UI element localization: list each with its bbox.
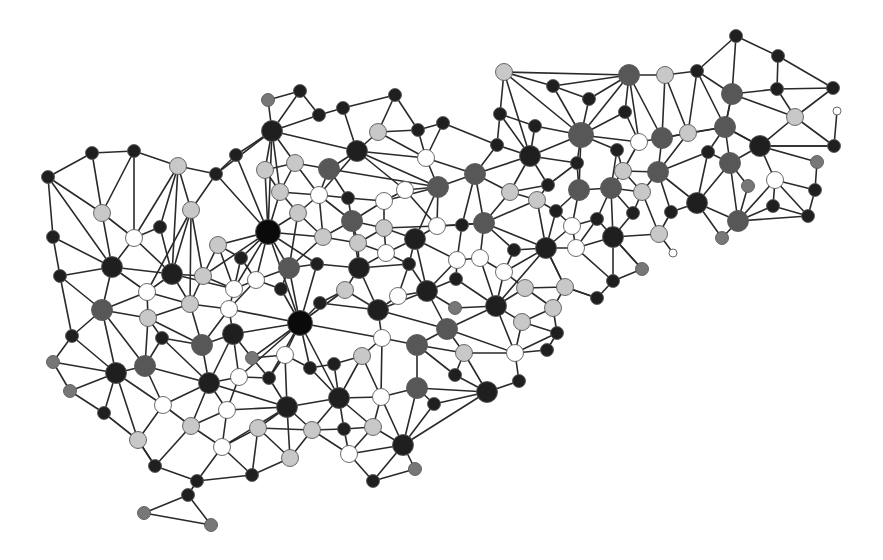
graph-node-white — [155, 397, 172, 414]
graph-edge — [48, 177, 53, 237]
graph-node-black — [256, 220, 281, 245]
graph-node-white — [376, 193, 393, 210]
graph-node-dark — [156, 332, 169, 345]
graph-node-white — [833, 107, 841, 115]
graph-node-dark — [199, 373, 220, 394]
graph-node-dark — [54, 270, 67, 283]
graph-node-dark — [607, 275, 620, 288]
graph-node-dark — [627, 207, 640, 220]
graph-node-dark — [98, 407, 111, 420]
graph-node-dark — [417, 281, 438, 302]
graph-node-gray — [47, 356, 60, 369]
graph-node-dark — [494, 108, 507, 121]
graph-node-dark — [277, 397, 298, 418]
graph-node-gray — [205, 519, 218, 532]
graph-edge — [736, 36, 778, 56]
graph-node-dark — [542, 179, 555, 192]
graph-node-dark — [47, 231, 60, 244]
graph-node-dark — [367, 475, 380, 488]
graph-node-light — [182, 296, 199, 313]
graph-node-dark — [828, 140, 841, 153]
graph-node-dark — [128, 145, 141, 158]
graph-node-white — [429, 218, 446, 235]
graph-node-white — [669, 249, 677, 257]
graph-edge — [777, 88, 833, 89]
graph-node-white — [568, 240, 585, 257]
graph-edge — [504, 72, 581, 135]
graph-node-dark — [547, 80, 560, 93]
graph-node-light — [456, 345, 473, 362]
graph-edge — [343, 95, 395, 108]
graph-node-dark — [809, 184, 822, 197]
graph-node-gray — [636, 263, 649, 276]
graph-node-dark — [827, 82, 840, 95]
graph-node-dark — [591, 213, 604, 226]
graph-node-dark — [262, 121, 283, 142]
graph-node-mid — [342, 211, 363, 232]
graph-node-white — [248, 272, 265, 289]
graph-node-white — [341, 446, 358, 463]
graph-node-light — [140, 310, 157, 327]
graph-node-white — [767, 172, 784, 189]
graph-node-dark — [349, 258, 370, 279]
graph-edge — [697, 36, 736, 71]
graph-node-dark — [154, 221, 167, 234]
graph-node-mid — [428, 177, 449, 198]
graph-node-white — [277, 347, 294, 364]
graph-node-dark — [767, 200, 780, 213]
graph-node-light — [94, 205, 111, 222]
graph-node-white — [226, 281, 243, 298]
graph-edge — [102, 151, 134, 213]
graph-edge — [144, 513, 211, 525]
graph-node-mid — [652, 128, 673, 149]
graph-node-dark — [182, 489, 195, 502]
graph-node-dark — [529, 120, 542, 133]
graph-node-light — [315, 229, 332, 246]
graph-node-light — [502, 184, 519, 201]
graph-node-dark — [328, 358, 341, 371]
graph-node-mid — [569, 123, 594, 148]
graph-node-light — [545, 300, 562, 317]
graph-node-dark — [687, 193, 708, 214]
graph-node-light — [304, 422, 321, 439]
graph-node-dark — [403, 258, 416, 271]
graph-node-dark — [149, 460, 162, 473]
graph-node-white — [390, 288, 407, 305]
graph-node-mid — [474, 213, 495, 234]
graph-node-dark — [393, 435, 414, 456]
graph-node-dark — [508, 244, 521, 257]
graph-node-dark — [223, 324, 244, 345]
graph-node-black — [288, 311, 313, 336]
graph-node-dark — [314, 297, 327, 310]
graph-node-light — [514, 314, 531, 331]
graph-node-white — [397, 182, 414, 199]
graph-node-dark — [428, 398, 441, 411]
graph-node-dark — [294, 85, 307, 98]
graph-edge — [443, 123, 497, 145]
graph-node-dark — [311, 258, 324, 271]
graph-node-white — [221, 301, 238, 318]
graph-node-dark — [235, 252, 248, 265]
graph-node-dark — [412, 124, 425, 137]
graph-node-gray — [742, 180, 755, 193]
graph-node-dark — [619, 106, 632, 119]
graph-node-light — [282, 450, 299, 467]
graph-node-dark — [541, 344, 554, 357]
graph-node-dark — [772, 50, 785, 63]
graph-node-dark — [450, 273, 463, 286]
graph-node-white — [373, 389, 390, 406]
graph-node-dark — [162, 264, 183, 285]
graph-node-light — [210, 237, 227, 254]
graph-node-dark — [210, 168, 223, 181]
graph-node-mid — [407, 335, 428, 356]
graph-node-dark — [750, 136, 771, 157]
graph-node-dark — [106, 363, 127, 384]
graph-node-light — [130, 432, 147, 449]
graph-node-dark — [42, 171, 55, 184]
graph-edge — [48, 177, 112, 267]
graph-node-gray — [716, 232, 729, 245]
graph-node-dark — [230, 149, 243, 162]
graph-node-gray — [246, 352, 259, 365]
graph-node-dark — [665, 206, 678, 219]
graph-edge — [92, 153, 102, 213]
